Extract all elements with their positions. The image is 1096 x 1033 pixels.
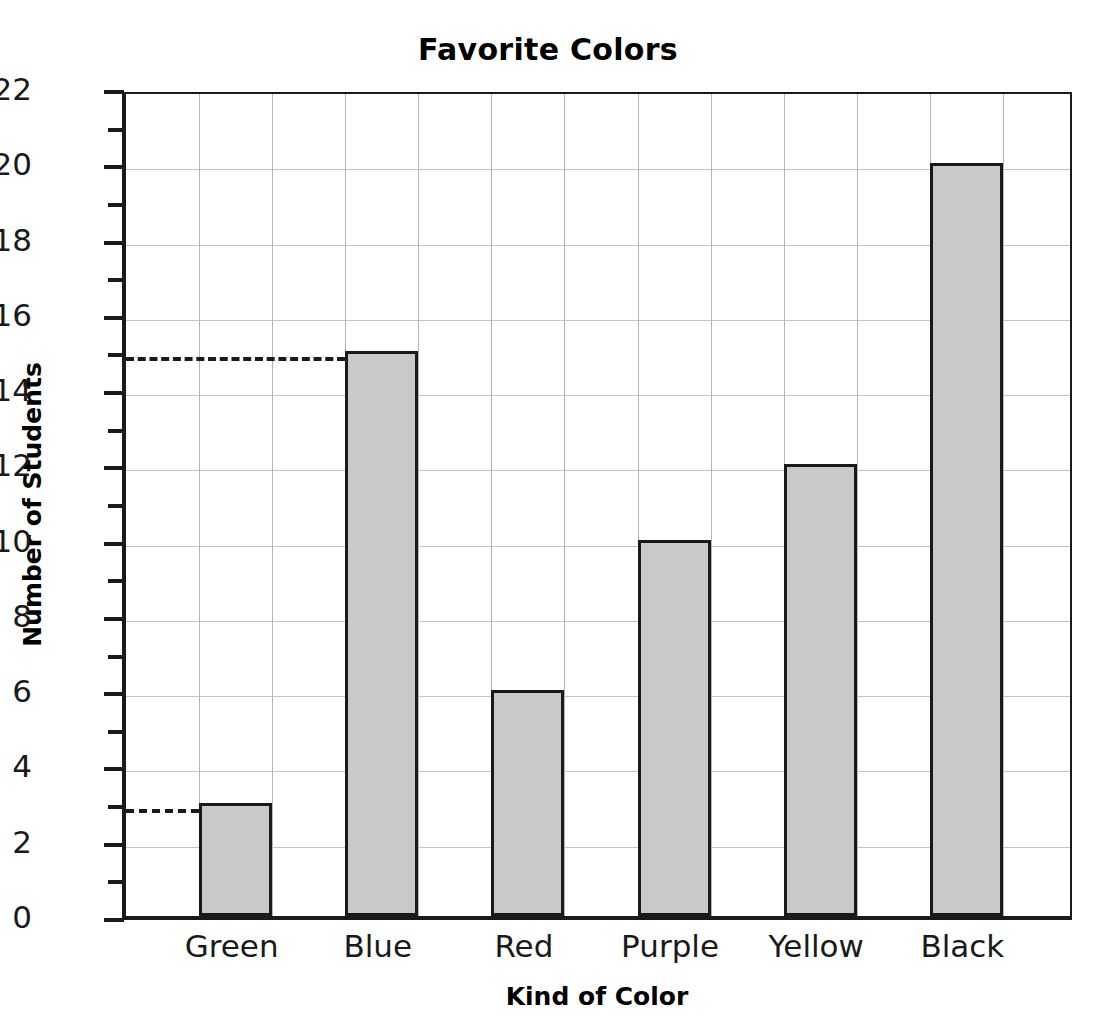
y-tick-major	[104, 316, 124, 320]
y-tick-major	[104, 767, 124, 771]
y-tick-label: 6	[0, 676, 32, 707]
y-axis-title: Number of Students	[18, 305, 47, 705]
y-tick-minor	[108, 655, 124, 659]
y-tick-minor	[108, 805, 124, 809]
y-tick-major	[104, 843, 124, 847]
y-tick-major	[104, 165, 124, 169]
y-tick-major	[104, 542, 124, 546]
y-tick-major	[104, 617, 124, 621]
x-tick-label: Black	[882, 928, 1043, 964]
x-axis-title: Kind of Color	[122, 982, 1072, 1011]
chart-title: Favorite Colors	[0, 32, 1096, 67]
y-tick-minor	[108, 278, 124, 282]
reference-line	[126, 357, 345, 361]
y-tick-minor	[108, 203, 124, 207]
x-tick-label: Yellow	[736, 928, 897, 964]
y-tick-label: 10	[0, 526, 32, 557]
reference-lines-group	[126, 94, 1070, 916]
y-tick-major	[104, 391, 124, 395]
plot-area	[122, 92, 1072, 920]
y-tick-minor	[108, 353, 124, 357]
y-tick-minor	[108, 504, 124, 508]
y-tick-major	[104, 466, 124, 470]
x-tick-label: Blue	[297, 928, 458, 964]
y-tick-label: 12	[0, 450, 32, 481]
y-tick-major	[104, 692, 124, 696]
y-tick-major	[104, 90, 124, 94]
y-tick-major	[104, 918, 124, 922]
y-tick-label: 14	[0, 375, 32, 406]
chart-canvas: Favorite Colors Number of Students Kind …	[0, 0, 1096, 1033]
x-tick-label: Red	[444, 928, 605, 964]
y-tick-label: 20	[0, 149, 32, 180]
y-tick-label: 16	[0, 300, 32, 331]
y-tick-minor	[108, 128, 124, 132]
x-tick-label: Green	[151, 928, 312, 964]
y-tick-label: 8	[0, 601, 32, 632]
x-tick-label: Purple	[590, 928, 751, 964]
y-tick-label: 4	[0, 751, 32, 782]
y-tick-label: 2	[0, 827, 32, 858]
y-tick-minor	[108, 429, 124, 433]
y-tick-minor	[108, 880, 124, 884]
y-tick-major	[104, 241, 124, 245]
y-tick-label: 22	[0, 74, 32, 105]
reference-line	[126, 809, 199, 813]
y-tick-label: 18	[0, 225, 32, 256]
y-tick-minor	[108, 579, 124, 583]
y-tick-label: 0	[0, 902, 32, 933]
y-tick-minor	[108, 730, 124, 734]
